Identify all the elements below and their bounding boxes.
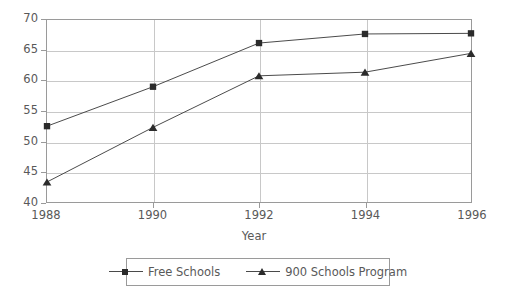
x-axis-tick-mark (259, 203, 260, 208)
x-axis-label: Year (0, 229, 508, 243)
data-point-triangle-marker (149, 124, 158, 131)
y-axis-tick-label: 40 (0, 197, 38, 209)
x-axis-tick-mark (153, 203, 154, 208)
y-axis-tick-label: 50 (0, 136, 38, 148)
x-axis-tick-label: 1996 (442, 209, 502, 221)
legend-label-free-schools: Free Schools (148, 266, 220, 278)
y-axis-tick-mark (41, 203, 46, 204)
x-axis-tick-label: 1988 (16, 209, 76, 221)
y-axis-tick-label: 60 (0, 74, 38, 86)
plot-area (46, 19, 472, 203)
data-point-triangle-marker (43, 178, 52, 185)
line-chart: 40455055606570 19881990199219941996 Year… (0, 0, 508, 303)
data-point-triangle-marker (467, 50, 476, 57)
y-axis-tick-label: 65 (0, 44, 38, 56)
data-point-square-marker (362, 31, 368, 37)
series-layer (47, 20, 471, 202)
y-axis-tick-label: 55 (0, 105, 38, 117)
chart-legend: Free Schools 900 Schools Program (126, 258, 390, 286)
x-axis-tick-label: 1994 (336, 209, 396, 221)
data-point-square-marker (150, 84, 156, 90)
series-line-0 (47, 33, 471, 126)
x-axis-tick-label: 1990 (123, 209, 183, 221)
x-axis-tick-label: 1992 (229, 209, 289, 221)
data-point-square-marker (256, 40, 262, 46)
legend-triangle-marker-icon (246, 266, 280, 278)
legend-label-900-schools-program: 900 Schools Program (285, 266, 407, 278)
data-point-square-marker (44, 123, 50, 129)
y-axis-tick-label: 45 (0, 166, 38, 178)
data-point-square-marker (468, 30, 474, 36)
legend-item-900-schools-program[interactable]: 900 Schools Program (246, 266, 407, 278)
x-axis-tick-mark (366, 203, 367, 208)
legend-square-marker-icon (109, 266, 143, 278)
y-axis-tick-label: 70 (0, 13, 38, 25)
legend-item-free-schools[interactable]: Free Schools (109, 266, 220, 278)
